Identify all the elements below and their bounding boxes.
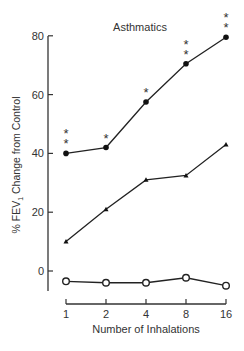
y-tick-label: 60 xyxy=(32,89,44,101)
significance-asterisk: * xyxy=(223,10,228,25)
data-point xyxy=(63,151,69,157)
y-axis-label: % FEV1 Change from Control xyxy=(10,97,24,234)
data-point xyxy=(183,274,190,281)
data-point xyxy=(63,278,70,285)
x-tick-label: 1 xyxy=(63,308,69,320)
line-chart: Asthmatics 020406080 % FEV1 Change from … xyxy=(0,0,244,351)
data-point xyxy=(223,34,229,40)
x-tick-label: 8 xyxy=(183,308,189,320)
series-layer: ******** xyxy=(63,10,230,289)
x-tick-label: 16 xyxy=(220,308,232,320)
y-tick-label: 80 xyxy=(32,30,44,42)
significance-asterisk: * xyxy=(63,126,68,141)
x-tick-label: 4 xyxy=(143,308,149,320)
data-point xyxy=(103,145,109,151)
significance-asterisk: * xyxy=(143,85,148,100)
series-open-circle xyxy=(63,274,230,289)
data-point xyxy=(143,279,150,286)
x-axis: 124816 Number of Inhalations xyxy=(63,299,232,335)
data-point xyxy=(103,279,110,286)
x-tick-label: 2 xyxy=(103,308,109,320)
significance-asterisk: * xyxy=(103,131,108,146)
y-tick-label: 40 xyxy=(32,147,44,159)
series-triangle xyxy=(64,142,229,244)
chart-title: Asthmatics xyxy=(113,21,167,33)
y-axis: 020406080 % FEV1 Change from Control xyxy=(10,30,53,291)
significance-asterisk: * xyxy=(183,37,188,52)
data-point xyxy=(143,99,149,105)
data-point xyxy=(223,282,230,289)
y-tick-label: 0 xyxy=(38,265,44,277)
x-axis-label: Number of Inhalations xyxy=(92,323,200,335)
data-point xyxy=(224,142,229,147)
data-point xyxy=(183,61,189,67)
y-tick-label: 20 xyxy=(32,206,44,218)
